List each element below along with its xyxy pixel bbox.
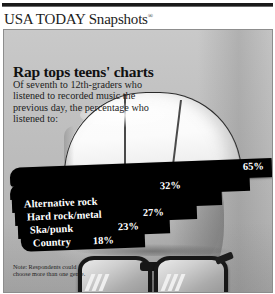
chart-note: Note: Respondents could choose more than… — [13, 263, 91, 278]
chart-source: Source: Kaiser Family Foundation — [13, 292, 95, 293]
bar-category-country: Country — [33, 236, 71, 248]
chart-subtitle: Of seventh to 12th-graders who listened … — [13, 79, 171, 125]
chart-panel: 65% Rap/hip-hop 32% Alternative rock Har… — [3, 29, 273, 293]
brand-title-text: USA TODAY Snapshots — [4, 11, 148, 27]
snapshot-infographic: USA TODAY Snapshots® — [0, 0, 275, 294]
bar-value-ska-punk: 23% — [118, 220, 139, 232]
bar-value-alternative-rock: 32% — [160, 179, 181, 191]
registered-trademark-icon: ® — [148, 12, 153, 20]
bar-value-hard-rock-metal: 27% — [143, 206, 164, 218]
bar-value-country: 18% — [93, 234, 114, 246]
brand-title: USA TODAY Snapshots® — [4, 7, 234, 25]
bar-category-ska-punk: Ska/punk — [30, 223, 74, 236]
bar-value-rap-hip-hop: 65% — [243, 160, 264, 172]
